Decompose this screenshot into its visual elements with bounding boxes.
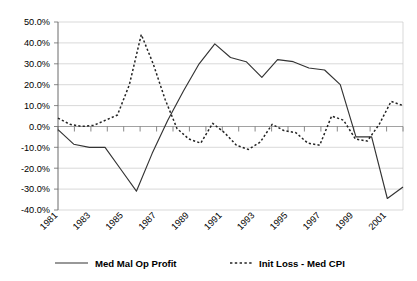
legend: Med Mal Op Profit Init Loss - Med CPI	[55, 258, 345, 269]
x-tick-labels: 1981 1983 1985 1987 1989 1991 1993 1995 …	[38, 210, 388, 232]
y-tick-label: 50.0%	[24, 17, 50, 27]
x-tick-label: 1985	[104, 210, 126, 232]
plot-area-background	[58, 22, 403, 210]
y-tick-label: -30.0%	[21, 184, 50, 194]
x-tick-label: 2001	[366, 210, 388, 232]
y-tick-label: -10.0%	[21, 143, 50, 153]
x-tick-label: 1987	[136, 210, 158, 232]
x-tick-label: 1999	[334, 210, 356, 232]
y-tick-label: 20.0%	[24, 80, 50, 90]
y-tick-label: 10.0%	[24, 101, 50, 111]
x-tick-label: 1983	[71, 210, 93, 232]
x-tick-label: 1997	[301, 210, 323, 232]
y-tick-label: 0.0%	[29, 122, 50, 132]
x-tick-label: 1991	[202, 210, 224, 232]
y-tick-label: -20.0%	[21, 164, 50, 174]
legend-label-init-loss-med-cpi: Init Loss - Med CPI	[259, 258, 345, 269]
y-tick-label: -40.0%	[21, 205, 50, 215]
y-tick-label: 30.0%	[24, 59, 50, 69]
legend-label-med-mal-op-profit: Med Mal Op Profit	[95, 258, 177, 269]
x-tick-label: 1993	[235, 210, 257, 232]
line-chart: 50.0% 40.0% 30.0% 20.0% 10.0% 0.0% -10.0…	[0, 0, 417, 281]
x-tick-label: 1995	[268, 210, 290, 232]
x-tick-label: 1989	[169, 210, 191, 232]
y-tick-labels: 50.0% 40.0% 30.0% 20.0% 10.0% 0.0% -10.0…	[21, 17, 50, 215]
y-tick-label: 40.0%	[24, 38, 50, 48]
chart-container: 50.0% 40.0% 30.0% 20.0% 10.0% 0.0% -10.0…	[0, 0, 417, 281]
y-tick-marks	[54, 22, 58, 210]
